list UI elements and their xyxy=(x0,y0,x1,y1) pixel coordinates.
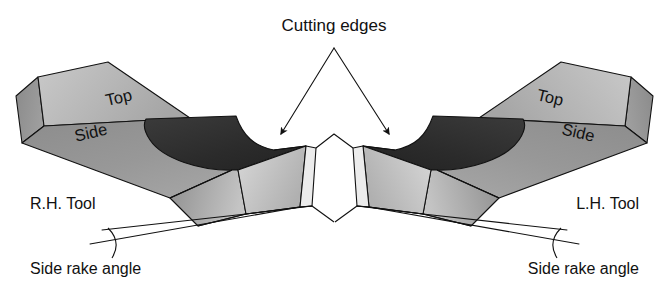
diagram-canvas: Cutting edges Top Side Top Side R.H. Too… xyxy=(0,0,669,296)
cutting-edge-leader-left xyxy=(281,48,334,134)
cutting-edges-leaders xyxy=(281,48,389,134)
cutting-edge-leader-right xyxy=(334,48,389,134)
tool-pair-center-apex xyxy=(316,134,353,148)
left-side-rake-angle-label: Side rake angle xyxy=(30,260,141,277)
cutting-tool-diagram: Cutting edges Top Side Top Side R.H. Too… xyxy=(0,0,669,296)
left-rake-angle-arc xyxy=(108,228,116,258)
right-hand-tool-label: R.H. Tool xyxy=(30,195,96,212)
cutting-edges-label: Cutting edges xyxy=(282,16,387,35)
right-rake-angle-arc xyxy=(553,228,561,258)
left-hand-tool-label: L.H. Tool xyxy=(576,195,639,212)
right-side-rake-angle-label: Side rake angle xyxy=(528,260,639,277)
